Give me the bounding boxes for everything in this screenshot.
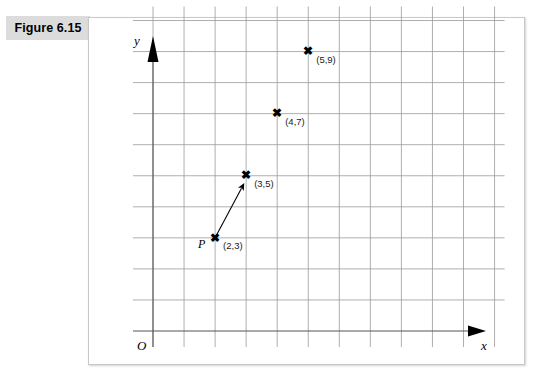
coordinate-plot: y x O ✖(2,3)P✖(3,5)✖(4,7)✖(5,9) xyxy=(0,0,547,376)
point-marker: ✖ xyxy=(241,168,251,182)
point-coordinate-label: (3,5) xyxy=(254,178,274,189)
x-axis-arrowhead xyxy=(468,326,486,337)
origin-label: O xyxy=(137,338,147,353)
y-axis-label: y xyxy=(132,33,140,48)
point-marker: ✖ xyxy=(272,106,282,120)
y-axis-arrowhead xyxy=(148,36,159,62)
point-coordinate-label: (4,7) xyxy=(285,116,305,127)
point-marker: ✖ xyxy=(210,231,220,245)
x-axis-label: x xyxy=(480,338,487,353)
point-name-label: P xyxy=(197,237,206,251)
point-marker: ✖ xyxy=(303,44,313,58)
point-coordinate-label: (5,9) xyxy=(316,54,336,65)
data-points: ✖(2,3)P✖(3,5)✖(4,7)✖(5,9) xyxy=(197,44,336,251)
point-coordinate-label: (2,3) xyxy=(223,240,243,251)
